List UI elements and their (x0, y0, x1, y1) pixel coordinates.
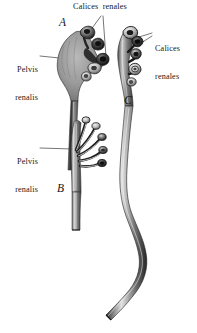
part-letter-a: A (59, 16, 66, 28)
specimen-a-calyx-2 (92, 38, 104, 50)
part-letter-b: B (57, 182, 64, 194)
leader-pelvis-lower (40, 148, 72, 149)
specimen-b (71, 117, 107, 230)
label-pelvis-renalis-upper: Pelvis renalis (0, 46, 38, 121)
label-calices-right-line2: renales (155, 72, 197, 81)
label-pelvis-upper-line1: Pelvis (0, 65, 38, 74)
specimen-a-calyx-5 (82, 72, 92, 81)
label-calices-renales-right: Calices renales (155, 25, 197, 100)
part-letter-c: C (124, 94, 132, 106)
leader-calices-top-2 (103, 16, 106, 57)
specimen-c-ureter (106, 106, 147, 320)
anatomical-figure: Calices renales Calices renales Pelvis r… (0, 0, 197, 333)
label-calices-renales-top: Calices renales (60, 2, 140, 11)
label-pelvis-upper-line2: renalis (0, 93, 38, 102)
specimen-b-ureter (72, 192, 81, 230)
specimen-c (106, 26, 147, 320)
label-pelvis-lower-line2: renalis (0, 185, 38, 194)
specimen-a-calyx-4 (88, 63, 101, 74)
label-pelvis-lower-line1: Pelvis (0, 157, 38, 166)
label-calices-right-line1: Calices (155, 44, 197, 53)
label-pelvis-renalis-lower: Pelvis renalis (0, 138, 38, 213)
